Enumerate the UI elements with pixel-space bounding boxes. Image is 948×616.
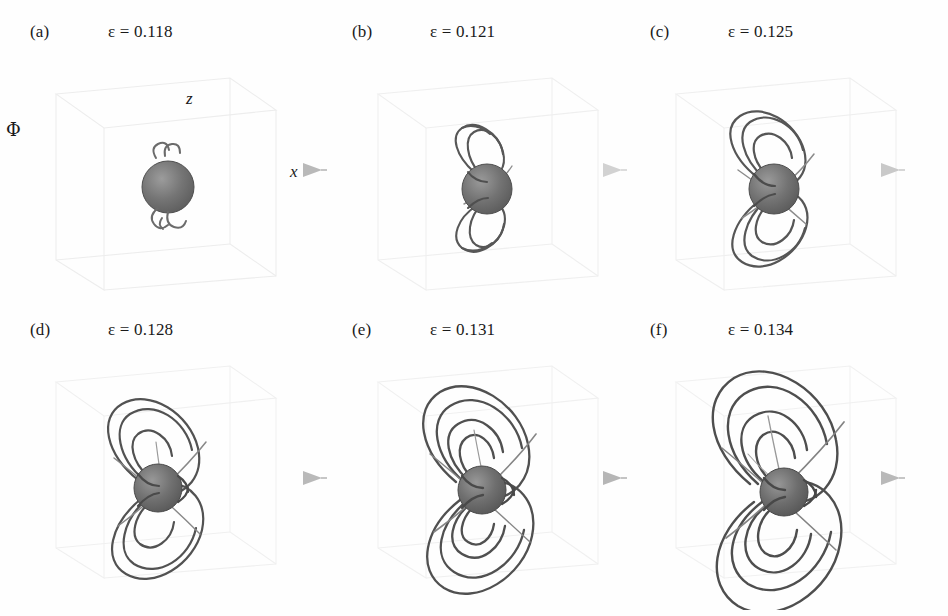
panel-b-scene bbox=[340, 32, 630, 312]
arrow-b-to-c bbox=[600, 160, 628, 180]
arrow-c-out bbox=[878, 160, 906, 180]
arrow-f-out bbox=[878, 468, 906, 488]
panel-a: (a) ε = 0.118 bbox=[18, 14, 308, 314]
figure-root: (a) ε = 0.118 bbox=[0, 0, 948, 616]
z-axis-label: z bbox=[186, 89, 193, 109]
panel-d-scene bbox=[18, 330, 308, 610]
x-axis-label: x bbox=[290, 162, 298, 182]
panel-f: (f) ε = 0.134 bbox=[638, 312, 928, 612]
arrow-d-to-e bbox=[300, 468, 328, 488]
phi-axis-label: Φ bbox=[6, 119, 21, 140]
panel-e-scene bbox=[340, 330, 630, 610]
panel-d: (d) ε = 0.128 bbox=[18, 312, 308, 612]
panel-a-scene bbox=[18, 32, 308, 312]
panel-b: (b) ε = 0.121 bbox=[340, 14, 630, 314]
arrow-a-to-b bbox=[300, 160, 328, 180]
arrow-e-to-f bbox=[600, 468, 628, 488]
panel-e: (e) ε = 0.131 bbox=[340, 312, 630, 612]
